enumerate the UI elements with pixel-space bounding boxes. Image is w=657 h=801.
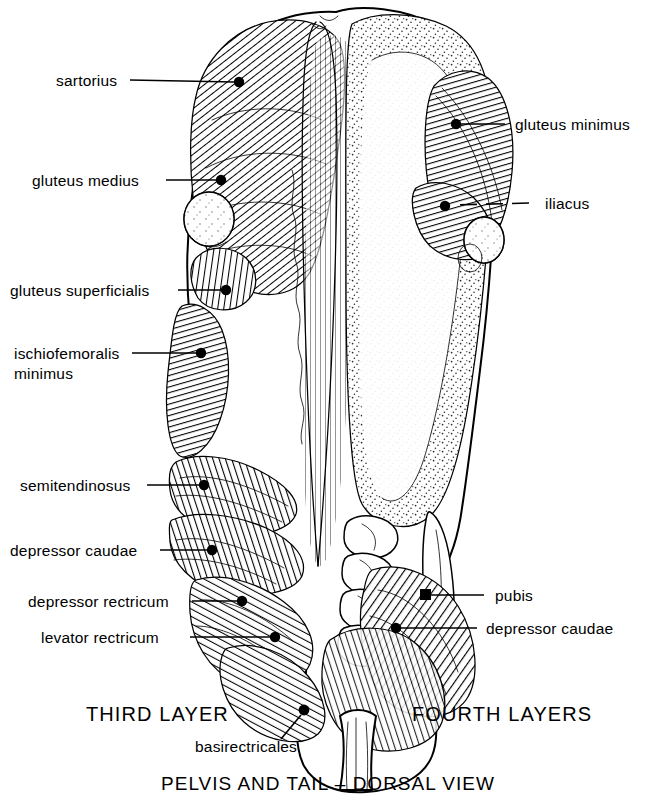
marker-dot-basirectricales [299, 705, 310, 716]
label-basirectricales: basirectricales [195, 738, 297, 755]
marker-dot-ischiofemoralis-minimus [196, 348, 206, 358]
label-gluteus-superficialis: gluteus superficialis [10, 282, 150, 299]
label-semitendinosus: semitendinosus [20, 477, 131, 494]
label-depressor-rectricum: depressor rectricum [28, 593, 169, 610]
label-ischiofemoralis-minimus-line1: ischiofemoralis [14, 345, 120, 362]
illustration-artwork [155, 5, 532, 792]
anatomical-figure: sartorius gluteus medius gluteus superfi… [0, 0, 657, 801]
caption-fourth-layers: FOURTH LAYERS [412, 703, 592, 725]
marker-dot-pubis [420, 589, 431, 600]
label-ischiofemoralis-minimus-line2: minimus [14, 365, 73, 382]
marker-dot-gluteus-minimus [451, 119, 461, 129]
marker-dot-levator-rectricum [270, 632, 280, 642]
label-iliacus: iliacus [545, 195, 590, 212]
label-depressor-caudae-right: depressor caudae [486, 620, 613, 637]
marker-dot-gluteus-superficialis [221, 285, 231, 295]
femoral-head-left [184, 192, 234, 247]
figure-title: PELVIS AND TAIL – DORSAL VIEW [161, 773, 495, 794]
marker-dot-iliacus [440, 201, 450, 211]
label-depressor-caudae-left: depressor caudae [10, 542, 137, 559]
marker-dot-sartorius [234, 77, 244, 87]
caption-third-layer: THIRD LAYER [86, 703, 229, 725]
marker-dot-depressor-rectricum [237, 596, 247, 606]
label-gluteus-minimus: gluteus minimus [515, 116, 630, 133]
marker-dot-depressor-caudae-left [207, 545, 217, 555]
marker-dot-depressor-caudae-right [391, 623, 401, 633]
pelvis-tail-dorsal-illustration: sartorius gluteus medius gluteus superfi… [0, 0, 657, 801]
marker-dot-gluteus-medius [216, 175, 226, 185]
label-gluteus-medius: gluteus medius [32, 172, 139, 189]
label-levator-rectricum: levator rectricum [41, 629, 159, 646]
label-pubis: pubis [495, 587, 533, 604]
label-sartorius: sartorius [56, 72, 117, 89]
marker-dot-semitendinosus [199, 480, 209, 490]
